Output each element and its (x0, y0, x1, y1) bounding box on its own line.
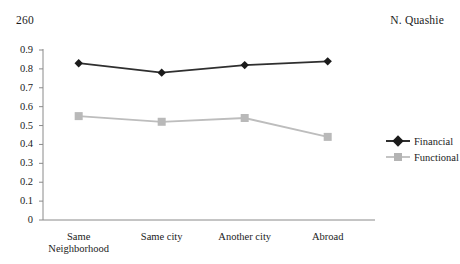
y-tick-label: 0.2 (7, 177, 33, 188)
legend-label-functional: Functional (414, 152, 459, 163)
legend-item-functional: Functional (386, 149, 460, 165)
y-tick-label: 0.8 (7, 64, 33, 75)
x-tick-label: SameNeighborhood (34, 231, 124, 255)
y-tick-label: 0.3 (7, 158, 33, 169)
x-tick-label: Abroad (283, 231, 373, 243)
y-tick-label: 0.6 (7, 102, 33, 113)
y-tick-label: 0.1 (7, 196, 33, 207)
chart-plot-area (0, 0, 460, 264)
legend-swatch-functional (386, 151, 410, 163)
document-page: 260 N. Quashie 00.10.20.30.40.50.60.70.8… (0, 0, 460, 264)
series-financial (74, 57, 331, 77)
line-chart-figure: 00.10.20.30.40.50.60.70.80.9 SameNeighbo… (0, 0, 460, 264)
y-tick-label: 0.7 (7, 83, 33, 94)
x-tick-label: Another city (200, 231, 290, 243)
y-tick-label: 0.4 (7, 139, 33, 150)
chart-legend: Financial Functional (386, 133, 460, 165)
y-tick-label: 0 (7, 215, 33, 226)
y-tick-label: 0.5 (7, 121, 33, 132)
legend-label-financial: Financial (414, 136, 453, 147)
chart-series-layer (74, 57, 331, 141)
y-tick-label: 0.9 (7, 45, 33, 56)
x-tick-label: Same city (117, 231, 207, 243)
legend-item-financial: Financial (386, 133, 460, 149)
series-functional (75, 112, 332, 141)
legend-swatch-financial (386, 135, 410, 147)
